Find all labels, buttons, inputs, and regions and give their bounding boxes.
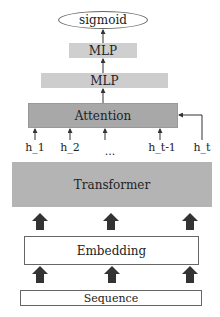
transformer-node: Transformer	[12, 162, 212, 207]
mlp-bottom-label: MLP	[90, 74, 118, 88]
mlp-top-node: MLP	[69, 43, 137, 58]
hidden-state-label: h_t-1	[148, 141, 176, 154]
hidden-state-label: h_t	[193, 141, 210, 154]
attention-node: Attention	[28, 103, 178, 128]
embedding-node: Embedding	[24, 236, 199, 265]
sigmoid-node: sigmoid	[58, 11, 148, 29]
hidden-state-label: h_1	[25, 141, 45, 154]
mlp-bottom-node: MLP	[41, 73, 168, 88]
transformer-label: Transformer	[74, 178, 150, 192]
sigmoid-label: sigmoid	[79, 13, 127, 27]
sequence-label: Sequence	[84, 292, 138, 305]
attention-label: Attention	[75, 109, 132, 123]
mlp-top-label: MLP	[89, 44, 117, 58]
hidden-state-label: h_2	[60, 141, 80, 154]
embedding-label: Embedding	[77, 244, 147, 258]
sequence-node: Sequence	[20, 290, 202, 306]
ellipsis-label: ...	[105, 145, 116, 158]
